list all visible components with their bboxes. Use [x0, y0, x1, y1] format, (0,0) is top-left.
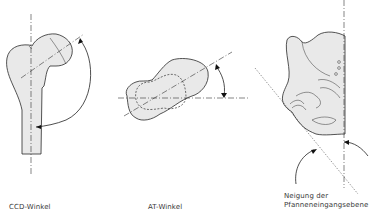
pelvis-label-line2: Pfanneneingangsebene	[284, 201, 368, 209]
at-femur-figure	[118, 52, 250, 120]
diagram-canvas	[0, 0, 376, 219]
ccd-angle-label: CCD-Winkel	[9, 203, 51, 211]
pelvis-label-line1: Neigung der	[284, 192, 328, 200]
at-angle-label: AT-Winkel	[148, 203, 182, 211]
pelvis-figure	[255, 0, 368, 194]
ccd-femur-figure	[7, 14, 91, 175]
